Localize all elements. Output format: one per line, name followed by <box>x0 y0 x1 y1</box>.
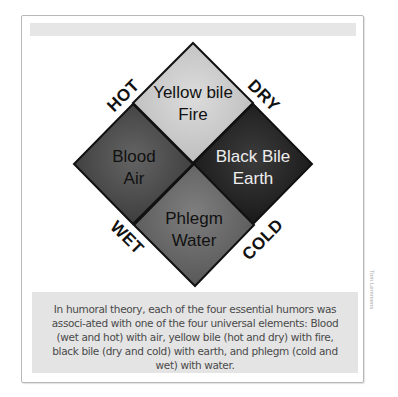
element-name: Water <box>134 230 254 252</box>
element-name: Fire <box>133 104 253 126</box>
humor-name: Black Bile <box>193 146 313 168</box>
humor-name: Yellow bile <box>133 82 253 104</box>
humor-name: Phlegm <box>134 208 254 230</box>
label-black-bile: Black Bile Earth <box>193 146 313 190</box>
caption-text: In humoral theory, each of the four esse… <box>48 302 342 372</box>
element-name: Earth <box>193 168 313 190</box>
photo-credit: Tom Lemmens <box>369 270 375 309</box>
humor-name: Blood <box>74 146 194 168</box>
label-phlegm: Phlegm Water <box>134 208 254 252</box>
label-yellow-bile: Yellow bile Fire <box>133 82 253 126</box>
label-blood: Blood Air <box>74 146 194 190</box>
element-name: Air <box>74 168 194 190</box>
